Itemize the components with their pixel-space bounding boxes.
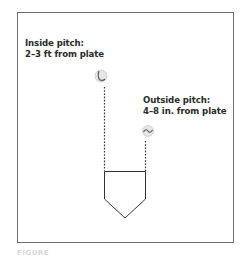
home-plate-icon	[105, 172, 146, 219]
figure-caption: FIGURE	[17, 249, 49, 256]
pitch-diagram	[0, 0, 250, 256]
inside-ball-icon	[95, 70, 107, 82]
outside-ball-icon	[143, 126, 154, 137]
